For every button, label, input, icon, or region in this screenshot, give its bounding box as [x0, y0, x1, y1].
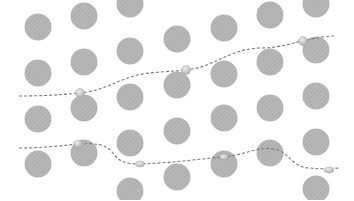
obstacle-circle — [257, 2, 284, 29]
particle-bead — [136, 161, 145, 167]
obstacle-circle — [117, 130, 144, 157]
obstacle-circle — [303, 129, 330, 156]
obstacle-circle — [257, 140, 284, 167]
obstacle-circle — [257, 95, 284, 122]
obstacle-circle — [257, 49, 284, 76]
obstacle-circle — [25, 151, 52, 178]
obstacle-circle — [211, 61, 238, 88]
obstacle-circle — [117, 38, 144, 65]
obstacle-circle — [164, 26, 191, 53]
obstacle-circle — [117, 84, 144, 111]
obstacle-circle — [25, 60, 52, 87]
obstacle-circle — [71, 49, 98, 76]
obstacle-circle — [71, 95, 98, 122]
obstacle-circle — [164, 72, 191, 99]
particle-bead — [220, 154, 229, 160]
obstacle-circle — [303, 0, 330, 18]
trajectory-paths — [19, 36, 340, 173]
obstacle-circle — [211, 15, 238, 42]
obstacle-circle — [71, 3, 98, 30]
diagram-canvas — [0, 0, 354, 200]
obstacle-circle — [117, 178, 144, 201]
obstacle-circle — [25, 106, 52, 133]
particle-bead — [299, 37, 308, 46]
obstacle-circles — [25, 0, 330, 200]
obstacle-circle — [164, 164, 191, 191]
obstacle-circle — [211, 105, 238, 132]
particle-bead — [324, 167, 334, 173]
obstacle-circle — [117, 0, 144, 18]
obstacle-circle — [25, 14, 52, 41]
obstacle-circle — [164, 118, 191, 145]
particle-bead — [74, 141, 83, 148]
particle-bead — [182, 66, 191, 75]
particle-trajectory-diagram — [0, 0, 354, 200]
particle-bead — [76, 89, 85, 98]
obstacle-circle — [303, 176, 330, 201]
obstacle-circle — [303, 83, 330, 110]
